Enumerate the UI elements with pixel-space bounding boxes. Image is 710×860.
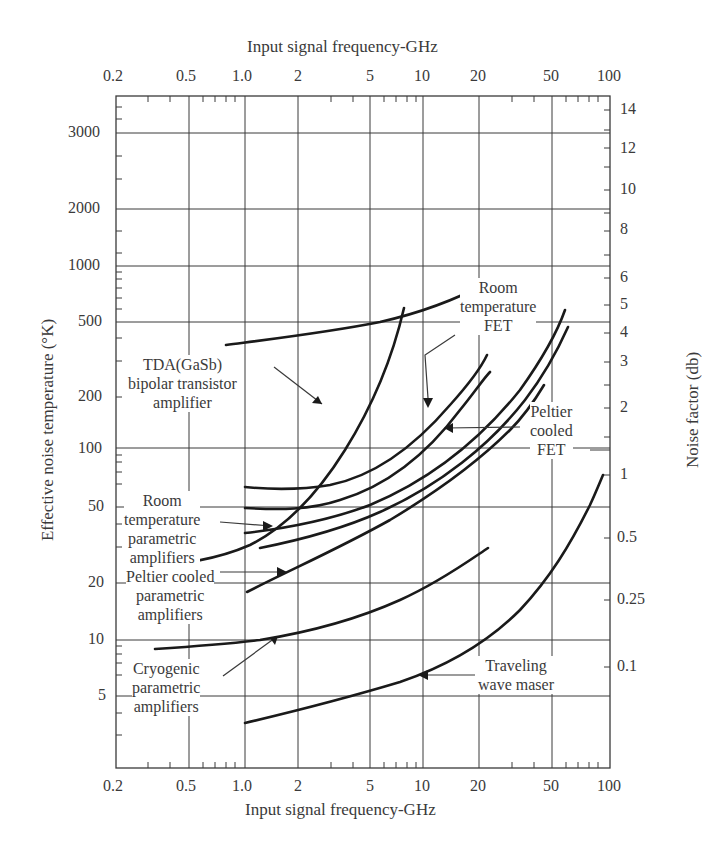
bottom-axis-title: Input signal frequency-GHz [245,800,436,820]
left-tick-3000: 3000 [68,123,100,141]
annotation-peltier-fet-line1: Peltier [530,402,573,421]
bottom-tick-0.2: 0.2 [103,777,123,795]
bottom-tick-20: 20 [470,777,486,795]
bottom-tick-10: 10 [414,777,430,795]
curve-room-temp-fet-top [226,283,487,345]
curve-peltier-fet-2 [260,327,568,548]
annotation-room-temp-param-line1: Room [124,491,200,510]
annotation-room-temp-param-line2: temperature [124,510,200,529]
annotation-room-temp-param-line4: amplifiers [124,548,200,567]
right-tick-8: 8 [620,220,628,238]
right-tick-12: 12 [620,139,636,157]
annotation-peltier-fet: Peltier cooled FET [530,402,573,459]
bottom-tick-0.5: 0.5 [176,777,196,795]
annotation-room-temp-fet: Room temperature FET [460,278,536,335]
annotation-room-temp-fet-line3: FET [460,316,536,335]
annotation-peltier-param-line2: parametric [126,586,214,605]
annotation-cryogenic-param-line2: parametric [132,678,200,697]
left-tick-500: 500 [78,312,102,330]
bottom-tick-100: 100 [597,777,621,795]
top-axis-title: Input signal frequency-GHz [247,37,438,57]
left-tick-100: 100 [78,439,102,457]
top-tick-0.2: 0.2 [103,67,123,85]
annotation-tda-line1: TDA(GaSb) [128,355,237,374]
right-tick-0.25: 0.25 [617,590,645,608]
right-tick-4: 4 [620,323,628,341]
annotation-room-temp-fet-line1: Room [460,278,536,297]
annotation-tda: TDA(GaSb) bipolar transistor amplifier [128,355,237,412]
annotation-room-temp-param: Room temperature parametric amplifiers [124,491,200,567]
right-tick-3: 3 [620,352,628,370]
annotation-cryogenic-param: Cryogenic parametric amplifiers [132,659,200,716]
y-minor-ticks [116,107,122,735]
annotation-peltier-param: Peltier cooled parametric amplifiers [126,567,214,624]
top-tick-10: 10 [414,67,430,85]
annotation-cryogenic-param-line3: amplifiers [132,697,200,716]
right-tick-6: 6 [620,268,628,286]
left-tick-50: 50 [88,497,104,515]
annotation-twm-line1: Traveling [478,656,554,675]
right-tick-14: 14 [620,100,636,118]
top-tick-1.0: 1.0 [232,67,252,85]
annotation-cryogenic-param-line1: Cryogenic [132,659,200,678]
annotation-twm-line2: wave maser [478,675,554,694]
left-tick-200: 200 [78,387,102,405]
chart-canvas [0,0,710,860]
top-tick-100: 100 [597,67,621,85]
left-tick-2000: 2000 [68,199,100,217]
right-tick-2: 2 [620,398,628,416]
annotation-peltier-param-line3: amplifiers [126,605,214,624]
annotation-tda-line3: amplifier [128,393,237,412]
top-tick-20: 20 [470,67,486,85]
left-tick-20: 20 [88,573,104,591]
left-tick-10: 10 [88,630,104,648]
right-tick-0.1: 0.1 [617,657,637,675]
top-tick-5: 5 [366,67,374,85]
right-tick-0.5: 0.5 [617,528,637,546]
left-axis-title: Effective noise temperature (°K) [38,310,58,550]
arrowheads [263,283,489,680]
annotation-tda-line2: bipolar transistor [128,374,237,393]
right-tick-1: 1 [620,465,628,483]
bottom-tick-5: 5 [366,777,374,795]
left-tick-5: 5 [98,686,106,704]
right-tick-10: 10 [620,180,636,198]
annotation-peltier-fet-line3: FET [530,440,573,459]
bottom-tick-50: 50 [543,777,559,795]
top-tick-2: 2 [294,67,302,85]
right-tick-5: 5 [620,295,628,313]
bottom-tick-2: 2 [294,777,302,795]
annotation-peltier-fet-line2: cooled [530,421,573,440]
right-axis-title: Noise factor (db) [683,330,703,490]
annotation-room-temp-fet-line2: temperature [460,297,536,316]
left-tick-1000: 1000 [68,256,100,274]
top-tick-50: 50 [543,67,559,85]
top-tick-0.5: 0.5 [176,67,196,85]
bottom-tick-1.0: 1.0 [232,777,252,795]
annotation-room-temp-param-line3: parametric [124,529,200,548]
annotation-peltier-param-line1: Peltier cooled [126,567,214,586]
annotation-traveling-wave-maser: Traveling wave maser [478,656,554,694]
